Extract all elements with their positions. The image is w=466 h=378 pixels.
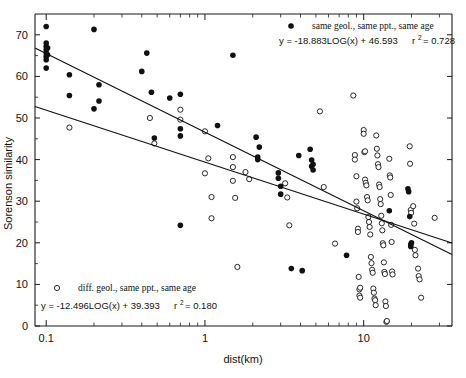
data-point bbox=[407, 144, 412, 149]
data-point bbox=[287, 223, 292, 228]
legend-top: same geol., same ppt., same age y = -18.… bbox=[279, 21, 455, 46]
x-axis-ticks: 0.1110 bbox=[39, 320, 370, 344]
y-tick-label: 40 bbox=[16, 154, 28, 166]
legend-top-label: same geol., same ppt., same age bbox=[312, 21, 434, 31]
y-tick-label: 10 bbox=[16, 278, 28, 290]
data-point bbox=[283, 181, 288, 186]
data-point bbox=[278, 191, 284, 197]
data-point bbox=[144, 50, 150, 56]
data-point bbox=[406, 189, 412, 195]
legend-top-r-symbol: r bbox=[412, 35, 415, 46]
data-point bbox=[432, 215, 437, 220]
data-point bbox=[380, 228, 385, 233]
y-tick-label: 0 bbox=[22, 320, 28, 332]
data-point bbox=[366, 219, 371, 224]
x-axis-title: dist(km) bbox=[223, 353, 262, 365]
data-point bbox=[368, 232, 373, 237]
data-point bbox=[382, 271, 387, 276]
legend-bottom-label: diff. geol., same ppt., same age bbox=[78, 283, 196, 293]
data-point bbox=[415, 266, 420, 271]
regression-lines bbox=[35, 48, 452, 254]
data-point bbox=[209, 216, 214, 221]
data-point bbox=[289, 266, 295, 272]
data-point bbox=[367, 224, 372, 229]
data-point bbox=[377, 184, 382, 189]
data-point bbox=[299, 268, 305, 274]
top-axis-ticks bbox=[46, 14, 439, 20]
y-axis-title: Sorenson similarity bbox=[2, 137, 14, 230]
data-point bbox=[43, 65, 49, 71]
data-point bbox=[215, 123, 221, 129]
data-point bbox=[390, 272, 395, 277]
data-point bbox=[371, 290, 376, 295]
data-point bbox=[310, 167, 316, 173]
regression-line bbox=[35, 48, 452, 254]
series-same-geol-points bbox=[43, 24, 414, 274]
data-point bbox=[384, 318, 389, 323]
data-point bbox=[147, 115, 152, 120]
legend-filled-circle-icon bbox=[288, 23, 294, 29]
data-point bbox=[230, 155, 235, 160]
data-point bbox=[67, 72, 73, 78]
data-point bbox=[378, 202, 383, 207]
data-point bbox=[167, 95, 173, 101]
data-point bbox=[373, 298, 378, 303]
data-point bbox=[67, 125, 72, 130]
data-point bbox=[365, 198, 370, 203]
data-point bbox=[417, 277, 422, 282]
data-point bbox=[230, 178, 235, 183]
data-point bbox=[235, 264, 240, 269]
data-point bbox=[413, 253, 418, 258]
data-point bbox=[362, 149, 367, 154]
data-point bbox=[355, 229, 360, 234]
data-point bbox=[178, 133, 184, 139]
legend-top-r-value: = 0.728 bbox=[423, 35, 455, 46]
data-point bbox=[321, 184, 326, 189]
data-point bbox=[381, 243, 386, 248]
data-point bbox=[356, 274, 361, 279]
data-point bbox=[178, 107, 183, 112]
data-point bbox=[152, 135, 158, 141]
data-point bbox=[373, 303, 378, 308]
data-point bbox=[233, 195, 238, 200]
data-point bbox=[67, 93, 73, 99]
legend-bottom-equation: y = -12.496LOG(x) + 39.393 bbox=[41, 300, 160, 311]
data-point bbox=[178, 126, 184, 132]
data-point bbox=[230, 52, 236, 58]
data-point bbox=[351, 93, 356, 98]
data-point bbox=[388, 192, 393, 197]
data-point bbox=[361, 131, 366, 136]
data-point bbox=[388, 175, 393, 180]
data-point bbox=[379, 221, 384, 226]
data-point bbox=[352, 157, 357, 162]
data-point bbox=[91, 27, 97, 33]
data-point bbox=[354, 199, 359, 204]
data-point bbox=[310, 161, 316, 167]
legend-open-circle-icon bbox=[54, 285, 59, 290]
scatter-plot: 010203040506070 0.1110 Sorenson similari… bbox=[0, 0, 466, 378]
data-point bbox=[370, 270, 375, 275]
data-point bbox=[253, 134, 259, 140]
data-point bbox=[206, 156, 211, 161]
data-point bbox=[139, 69, 145, 75]
data-point bbox=[364, 183, 369, 188]
legend-bottom: diff. geol., same ppt., same age y = -12… bbox=[41, 283, 217, 311]
x-tick-label: 1 bbox=[202, 332, 208, 344]
x-tick-label: 10 bbox=[358, 332, 370, 344]
data-point bbox=[96, 98, 102, 104]
data-point bbox=[43, 57, 49, 63]
data-point bbox=[379, 213, 384, 218]
legend-bottom-r-exponent: 2 bbox=[180, 299, 184, 306]
legend-bottom-r-symbol: r bbox=[174, 300, 177, 311]
y-tick-label: 20 bbox=[16, 237, 28, 249]
data-point bbox=[243, 169, 248, 174]
y-tick-label: 30 bbox=[16, 195, 28, 207]
data-point bbox=[389, 239, 394, 244]
data-point bbox=[43, 24, 49, 30]
chart-figure: 010203040506070 0.1110 Sorenson similari… bbox=[0, 0, 466, 378]
data-point bbox=[276, 176, 282, 182]
data-point bbox=[178, 91, 184, 97]
data-point bbox=[317, 109, 322, 114]
data-point bbox=[230, 164, 235, 169]
data-point bbox=[149, 89, 155, 95]
